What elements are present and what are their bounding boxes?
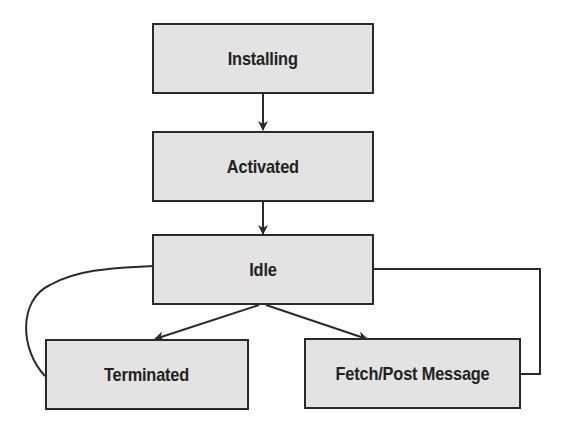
node-label: Idle <box>249 259 276 281</box>
node-label: Installing <box>228 48 298 70</box>
node-label: Activated <box>227 156 299 178</box>
node-installing: Installing <box>152 23 374 94</box>
edge-idle-terminated <box>155 305 259 339</box>
node-terminated: Terminated <box>45 339 249 410</box>
node-activated: Activated <box>152 131 374 202</box>
edge-idle-fetch <box>266 305 367 339</box>
node-fetch-post-message: Fetch/Post Message <box>304 338 521 409</box>
node-label: Terminated <box>104 364 189 386</box>
node-idle: Idle <box>152 234 374 305</box>
node-label: Fetch/Post Message <box>335 363 489 385</box>
